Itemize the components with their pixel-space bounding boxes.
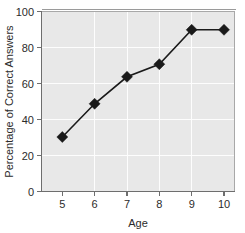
x-tick-label-5: 5: [59, 198, 65, 210]
y-tick-label-40: 40: [22, 114, 34, 126]
x-axis-title: Age: [128, 217, 148, 229]
x-tick-label-10: 10: [218, 198, 230, 210]
x-tick-label-8: 8: [156, 198, 162, 210]
x-tick-label-7: 7: [124, 198, 130, 210]
y-tick-label-100: 100: [16, 6, 34, 18]
line-chart: 100 80 60 40 20 0 5 6 7 8 9 10 Percentag…: [0, 0, 245, 233]
x-tick-label-6: 6: [92, 198, 98, 210]
y-tick-label-80: 80: [22, 42, 34, 54]
y-axis-title: Percentage of Correct Answers: [3, 25, 15, 178]
chart-canvas: 100 80 60 40 20 0 5 6 7 8 9 10 Percentag…: [0, 0, 245, 233]
y-tick-label-20: 20: [22, 150, 34, 162]
plot-background: [41, 11, 235, 192]
y-tick-label-60: 60: [22, 78, 34, 90]
y-tick-label-0: 0: [28, 186, 34, 198]
x-tick-label-9: 9: [189, 198, 195, 210]
